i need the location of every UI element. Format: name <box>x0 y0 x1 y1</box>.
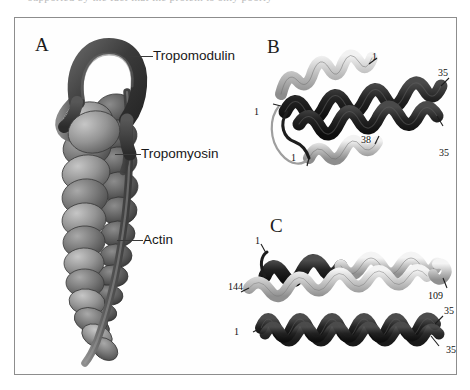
actin-label: Actin <box>143 233 173 247</box>
panel-c-residue-1-upper: 1 <box>255 236 260 246</box>
panel-c-residue-35-lower: 35 <box>446 345 456 355</box>
figure-root: supported by the fact that the protein i… <box>0 0 470 390</box>
tropomodulin-leader-line <box>127 56 153 57</box>
panel-b-residue-1-left: 1 <box>254 107 259 117</box>
panel-b-residue-1-top: 1 <box>372 52 377 62</box>
top-cut-text-line: supported by the fact that the protein i… <box>28 0 272 3</box>
panel-c-residue-144: 144 <box>228 282 243 292</box>
panel-b-residue-35-upper: 35 <box>438 68 448 78</box>
tropomyosin-label: Tropomyosin <box>141 147 219 161</box>
panel-b-residue-35-lower: 35 <box>439 148 449 158</box>
panel-b-residue-38: 38 <box>361 135 371 145</box>
tropomodulin-label: Tropomodulin <box>153 49 235 63</box>
actin-filament <box>59 46 140 365</box>
panel-c-residue-109: 109 <box>428 291 443 301</box>
figure-frame: A <box>14 17 457 375</box>
panel-b-upper-light-helix <box>281 55 372 94</box>
panel-c-residue-35-upper: 35 <box>444 306 454 316</box>
page-top-cut-text: supported by the fact that the protein i… <box>0 0 470 13</box>
panel-c-right-terminal-hook <box>433 264 447 280</box>
tropomyosin-leader-line <box>115 154 141 155</box>
actin-leader-line <box>117 240 143 241</box>
panel-c-residue-1-lower: 1 <box>234 327 239 337</box>
panel-c-letter: C <box>270 216 283 235</box>
panel-a-illustration <box>31 36 211 366</box>
panel-b-illustration <box>273 54 463 174</box>
panel-b-residue-1-lower: 1 <box>291 153 296 163</box>
